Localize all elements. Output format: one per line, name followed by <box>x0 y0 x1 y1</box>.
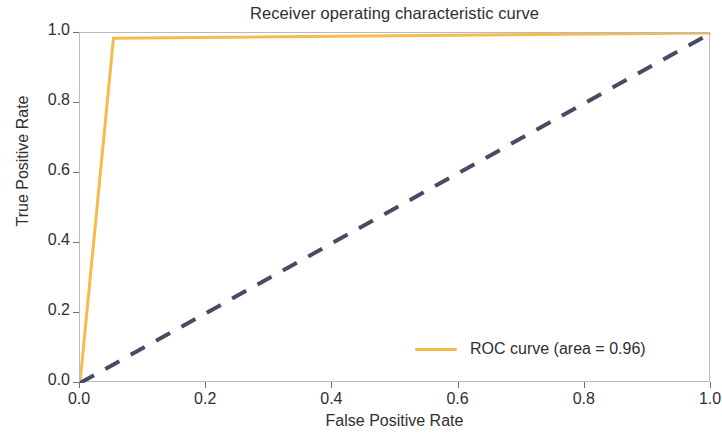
y-axis-title: True Positive Rate <box>14 61 32 261</box>
y-tick-mark <box>73 102 79 103</box>
x-tick-label: 0.8 <box>544 390 624 408</box>
x-tick-mark <box>205 382 206 388</box>
x-axis-tick-labels: 0.00.20.40.60.81.0 <box>79 390 710 412</box>
x-tick-label: 0.0 <box>39 390 119 408</box>
y-tick-label: 0.0 <box>4 371 70 389</box>
y-axis-tick-labels: 0.00.20.40.60.81.0 <box>0 32 70 382</box>
plot-canvas <box>80 33 711 383</box>
x-tick-mark <box>710 382 711 388</box>
chart-title: Receiver operating characteristic curve <box>79 4 710 23</box>
legend-line-swatch <box>415 348 457 351</box>
y-tick-mark <box>73 242 79 243</box>
series-line <box>80 33 711 383</box>
x-tick-label: 0.2 <box>165 390 245 408</box>
x-axis-title: False Positive Rate <box>79 412 710 430</box>
x-tick-mark <box>79 382 80 388</box>
x-tick-label: 0.4 <box>291 390 371 408</box>
x-tick-mark <box>584 382 585 388</box>
x-tick-label: 1.0 <box>670 390 722 408</box>
y-tick-mark <box>73 172 79 173</box>
y-tick-label: 1.0 <box>4 21 70 39</box>
plot-area <box>79 32 710 382</box>
y-tick-mark <box>73 312 79 313</box>
legend-label-roc-curve: ROC curve (area = 0.96) <box>470 340 646 358</box>
x-tick-label: 0.6 <box>418 390 498 408</box>
y-tick-label: 0.2 <box>4 301 70 319</box>
chart-legend: ROC curve (area = 0.96) <box>415 340 646 358</box>
y-tick-mark <box>73 32 79 33</box>
roc-chart-figure: Receiver operating characteristic curve … <box>0 0 722 435</box>
x-tick-mark <box>458 382 459 388</box>
x-tick-mark <box>331 382 332 388</box>
